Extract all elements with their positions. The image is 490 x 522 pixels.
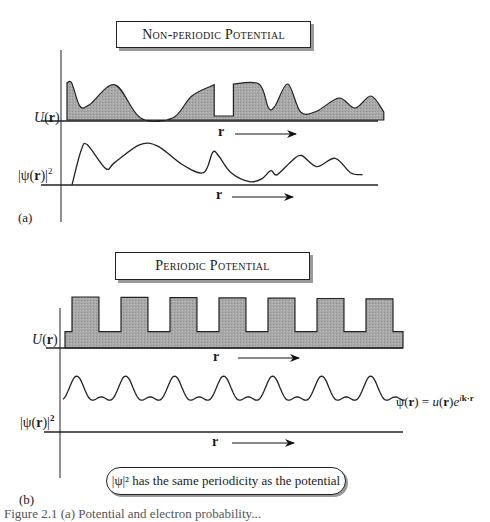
potential-label-b: U(r) bbox=[32, 332, 58, 348]
panel-tag-a: (a) bbox=[18, 210, 32, 226]
r-label-a1: r bbox=[218, 124, 224, 140]
periodic-probability-curve bbox=[63, 376, 405, 400]
potential-label-a: U(r) bbox=[34, 110, 60, 126]
nonperiodic-potential-curve bbox=[67, 81, 384, 121]
probability-label-a: |ψ(r)|2 bbox=[18, 166, 52, 184]
title-periodic-potential: Periodic Potential bbox=[115, 252, 310, 280]
r-label-b2: r bbox=[212, 434, 218, 450]
panel-a bbox=[41, 50, 384, 222]
figure-caption: Figure 2.1 (a) Potential and electron pr… bbox=[4, 506, 261, 522]
title-nonperiodic-potential: Non-periodic Potential bbox=[116, 21, 311, 48]
nonperiodic-probability-curve bbox=[72, 143, 363, 185]
bloch-wavefunction-equation: ψ(r) = u(r)eik·r bbox=[396, 393, 474, 410]
panel-b bbox=[44, 297, 405, 478]
periodic-potential-curve bbox=[65, 297, 403, 348]
r-label-a2: r bbox=[216, 187, 222, 203]
r-label-b1: r bbox=[213, 349, 219, 365]
probability-label-b: |ψ(r)|2 bbox=[20, 413, 54, 431]
periodicity-note: |ψ|² has the same periodicity as the pot… bbox=[106, 467, 346, 495]
